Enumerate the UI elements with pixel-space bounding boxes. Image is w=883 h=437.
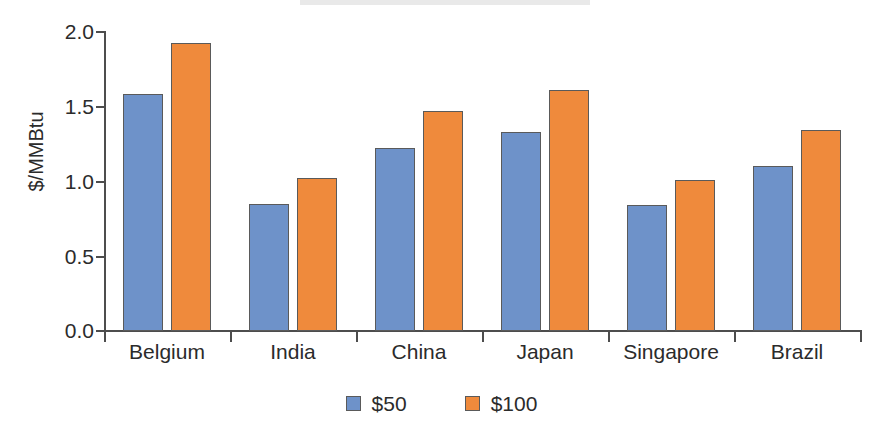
- bar-singapore--100[interactable]: [675, 180, 715, 332]
- bar-brazil--50[interactable]: [753, 166, 793, 331]
- x-tick-label-japan: Japan: [482, 340, 608, 363]
- y-tick-label-1-0: 1.0: [34, 171, 94, 192]
- x-tick-label-china: China: [356, 340, 482, 363]
- legend-swatch-100-icon: [465, 396, 480, 411]
- bar-japan--50[interactable]: [501, 132, 541, 332]
- bar-china--50[interactable]: [375, 148, 415, 331]
- legend-label-50: $50: [372, 393, 407, 414]
- chart-legend: $50 $100: [0, 393, 883, 414]
- x-tick-mark-6: [860, 332, 862, 342]
- legend-item-50[interactable]: $50: [346, 393, 407, 414]
- x-tick-label-brazil: Brazil: [734, 340, 860, 363]
- bar-china--100[interactable]: [423, 111, 463, 332]
- bar-belgium--50[interactable]: [123, 94, 163, 331]
- bar-india--100[interactable]: [297, 178, 337, 331]
- y-tick-label-1-5: 1.5: [34, 96, 94, 117]
- bar-brazil--100[interactable]: [801, 130, 841, 331]
- y-tick-label-0-0: 0.0: [34, 320, 94, 341]
- bar-japan--100[interactable]: [549, 90, 589, 332]
- bar-belgium--100[interactable]: [171, 43, 211, 331]
- y-tick-label-2-0: 2.0: [34, 21, 94, 42]
- bar-singapore--50[interactable]: [627, 205, 667, 331]
- bar-chart-figure: $/MMBtu 2.0 1.5 1.0 0.5 0.0 Belgium Indi…: [0, 0, 883, 437]
- y-axis-line: [104, 31, 106, 332]
- cropped-title-remnant: [300, 0, 590, 5]
- x-tick-label-india: India: [230, 340, 356, 363]
- y-tick-mark-0-5: [96, 256, 104, 258]
- y-tick-label-0-5: 0.5: [34, 246, 94, 267]
- y-tick-mark-2-0: [96, 31, 104, 33]
- y-tick-mark-1-0: [96, 181, 104, 183]
- y-tick-mark-1-5: [96, 106, 104, 108]
- y-tick-mark-0-0: [96, 330, 104, 332]
- legend-label-100: $100: [491, 393, 538, 414]
- bar-india--50[interactable]: [249, 204, 289, 332]
- x-tick-label-belgium: Belgium: [104, 340, 230, 363]
- x-tick-label-singapore: Singapore: [608, 340, 734, 363]
- legend-item-100[interactable]: $100: [465, 393, 538, 414]
- legend-swatch-50-icon: [346, 396, 361, 411]
